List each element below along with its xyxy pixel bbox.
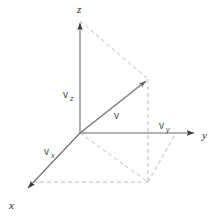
axis-label-y: y bbox=[201, 129, 207, 141]
component-base-vx: v bbox=[44, 146, 49, 157]
vector-v-group bbox=[80, 81, 146, 133]
component-label-vx: v x bbox=[44, 146, 55, 159]
component-base-vz: v bbox=[63, 89, 68, 100]
dashed-line-origin-to-floor-corner bbox=[80, 133, 148, 182]
diagram-canvas: z y x v v z v y v x bbox=[0, 0, 218, 218]
component-label-vz: v z bbox=[63, 89, 74, 102]
axes-group bbox=[28, 23, 194, 188]
dashed-line-floor-corner-to-y-axis bbox=[148, 133, 176, 182]
component-base-vy: v bbox=[159, 120, 164, 131]
axis-label-z: z bbox=[76, 3, 82, 15]
component-subscript-vz: z bbox=[69, 95, 74, 102]
component-subscript-vy: y bbox=[165, 126, 170, 134]
vector-v-arrow bbox=[80, 81, 146, 133]
axis-label-x: x bbox=[8, 199, 14, 211]
vector-label-v: v bbox=[114, 110, 119, 121]
dashed-line-z-tip-to-v-tip bbox=[80, 21, 148, 79]
x-axis-line bbox=[28, 133, 80, 188]
component-subscript-vx: x bbox=[50, 152, 55, 159]
component-label-vy: v y bbox=[159, 120, 170, 134]
vector-diagram: z y x v v z v y v x bbox=[0, 0, 218, 218]
